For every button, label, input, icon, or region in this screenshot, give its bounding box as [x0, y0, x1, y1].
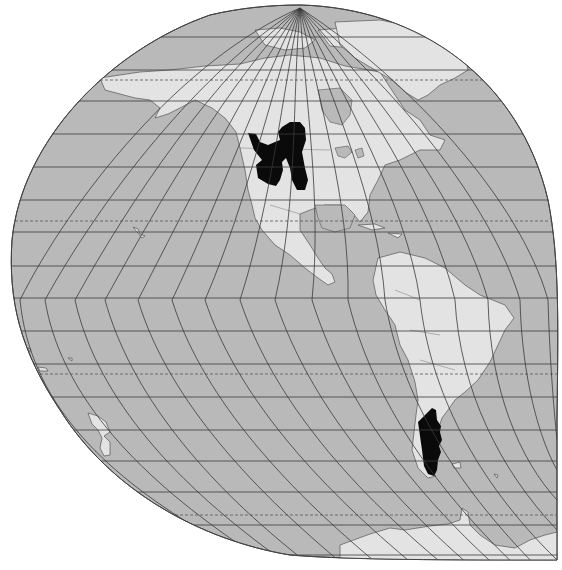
range-map [0, 0, 562, 570]
